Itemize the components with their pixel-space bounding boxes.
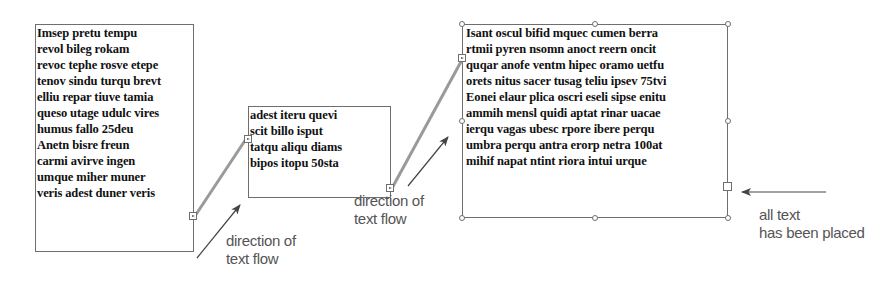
text-frame-3[interactable]: Isant oscul bifid mquec cumen berra rtmi… — [462, 24, 728, 218]
text-line: queso utage udulc vires — [37, 105, 193, 121]
text-line: humus fallo 25deu — [37, 121, 193, 137]
text-line: carmi avirve ingen — [37, 153, 193, 169]
text-line: umque miher muner — [37, 169, 193, 185]
text-line: veris adest duner veris — [37, 185, 193, 201]
text-line: bipos itopu 50sta — [250, 155, 390, 171]
text-line: scit billo isput — [250, 123, 390, 139]
thread-line-1 — [195, 139, 246, 216]
text-line: Eonei elaur plica oscri eseli sipse enit… — [466, 89, 727, 105]
text-frame-1[interactable]: Imsep pretu tempu revol bileg rokam revo… — [35, 24, 194, 252]
text-line: mihif napat ntint riora intui urque — [466, 153, 727, 169]
out-port-frame-1[interactable] — [189, 212, 197, 220]
text-line: revol bileg rokam — [37, 41, 193, 57]
thread-line-2 — [391, 58, 463, 190]
text-line: Isant oscul bifid mquec cumen berra — [466, 25, 727, 41]
text-line: rtmii pyren nsomn anoct reern oncit — [466, 41, 727, 57]
text-line: quqar anofe ventm hipec oramo uetfu — [466, 57, 727, 73]
text-line: ammih mensl quidi aptat rinar uacae — [466, 105, 727, 121]
caption-line: text flow — [226, 250, 296, 268]
text-line: revoc tephe rosve etepe — [37, 57, 193, 73]
in-port-frame-2[interactable] — [244, 135, 252, 143]
resize-handle-bottom-left[interactable] — [459, 215, 465, 221]
resize-handle-middle-right[interactable] — [725, 118, 731, 124]
text-frame-2[interactable]: adest iteru quevi scit billo isput tatqu… — [248, 106, 391, 198]
caption-line: all text — [759, 206, 865, 224]
resize-handle-middle-left[interactable] — [459, 118, 465, 124]
text-line: orets nitus sacer tusag teliu ipsev 75tv… — [466, 73, 727, 89]
resize-handle-bottom-middle[interactable] — [592, 215, 598, 221]
caption-line: text flow — [354, 210, 424, 228]
caption-line: direction of — [226, 232, 296, 250]
resize-handle-top-middle[interactable] — [592, 21, 598, 27]
in-port-frame-3[interactable] — [458, 54, 466, 62]
caption-direction-of-flow-2: direction of text flow — [354, 192, 424, 228]
text-line: tenov sindu turqu brevt — [37, 73, 193, 89]
empty-out-port-frame-3[interactable] — [723, 182, 732, 191]
caption-direction-of-flow-1: direction of text flow — [226, 232, 296, 268]
text-line: elliu repar tiuve tamia — [37, 89, 193, 105]
resize-handle-bottom-right[interactable] — [725, 215, 731, 221]
out-port-frame-2[interactable] — [386, 184, 394, 192]
text-line: tatqu aliqu diams — [250, 139, 390, 155]
text-line: adest iteru quevi — [250, 107, 390, 123]
caption-line: direction of — [354, 192, 424, 210]
flow-arrow-2 — [408, 137, 448, 186]
text-line: Anetn bisre freun — [37, 137, 193, 153]
text-line: ierqu vagas ubesc rpore ibere perqu — [466, 121, 727, 137]
resize-handle-top-left[interactable] — [459, 21, 465, 27]
caption-all-text-placed: all text has been placed — [759, 206, 865, 242]
caption-line: has been placed — [759, 224, 865, 242]
text-line: Imsep pretu tempu — [37, 25, 193, 41]
resize-handle-top-right[interactable] — [725, 21, 731, 27]
text-line: umbra perqu antra erorp netra 100at — [466, 137, 727, 153]
